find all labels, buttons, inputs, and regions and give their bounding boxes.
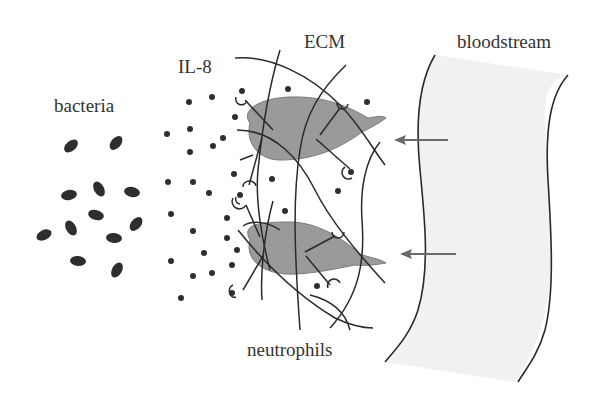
ecm-fibres [235, 50, 385, 330]
label-ecm: ECM [304, 31, 345, 52]
label-bloodstream: bloodstream [457, 31, 551, 52]
label-neutrophils: neutrophils [247, 339, 333, 360]
label-il8: IL-8 [178, 56, 212, 77]
label-bacteria: bacteria [54, 95, 115, 116]
bacteria-cluster [35, 134, 145, 280]
neutrophil-migration-diagram: bacteria IL-8 ECM bloodstream neutrophil… [0, 0, 599, 408]
bloodstream-vessel [385, 55, 568, 382]
